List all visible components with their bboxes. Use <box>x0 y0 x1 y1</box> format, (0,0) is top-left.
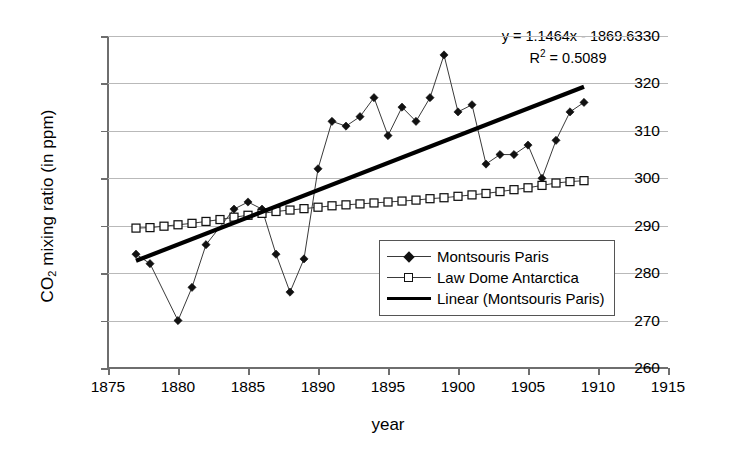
y-axis-title-subscript: 2 <box>46 271 58 277</box>
x-tick-label: 1895 <box>358 378 418 396</box>
data-point <box>440 51 448 59</box>
data-point <box>216 216 224 224</box>
x-tick-label: 1875 <box>78 378 138 396</box>
plot-area: 260270280290300310320330 187518801885189… <box>108 36 668 368</box>
data-point <box>244 198 252 206</box>
data-point <box>566 108 574 116</box>
data-point <box>314 203 322 211</box>
data-point <box>146 260 154 268</box>
x-tick-label: 1890 <box>288 378 348 396</box>
data-point <box>510 186 518 194</box>
legend-item: Linear (Montsouris Paris) <box>387 288 605 309</box>
legend-label: Montsouris Paris <box>437 248 549 265</box>
chart-figure: CO2 mixing ratio (in ppm) year y = 1.146… <box>0 0 752 463</box>
data-point <box>300 255 308 263</box>
data-point <box>174 221 182 229</box>
data-point <box>524 141 532 149</box>
data-point <box>496 188 504 196</box>
data-point <box>328 202 336 210</box>
data-point <box>370 94 378 102</box>
data-point <box>160 222 168 230</box>
data-point <box>580 177 588 185</box>
data-point <box>202 217 210 225</box>
y-axis-title-rest: mixing ratio (in ppm) <box>38 110 57 266</box>
y-tick <box>101 368 108 370</box>
x-tick-label: 1880 <box>148 378 208 396</box>
data-point <box>440 194 448 202</box>
y-tick <box>101 131 108 133</box>
legend-item: Law Dome Antarctica <box>387 267 605 288</box>
data-point <box>454 192 462 200</box>
data-point <box>356 200 364 208</box>
y-tick <box>101 321 108 323</box>
data-point <box>384 132 392 140</box>
legend-item: Montsouris Paris <box>387 246 605 267</box>
legend: Montsouris Paris Law Dome Antarctica Lin… <box>379 240 615 316</box>
data-point <box>342 122 350 130</box>
data-point <box>342 201 350 209</box>
data-point <box>496 150 504 158</box>
data-point <box>356 113 364 121</box>
data-point <box>566 178 574 186</box>
data-point <box>482 160 490 168</box>
y-tick <box>101 36 108 38</box>
data-point <box>538 181 546 189</box>
data-point <box>146 224 154 232</box>
data-point <box>132 224 140 232</box>
data-point <box>454 108 462 116</box>
data-point <box>132 250 140 258</box>
y-tick <box>101 83 108 85</box>
x-tick-label: 1900 <box>428 378 488 396</box>
legend-key-law-dome-antarctica <box>387 271 431 285</box>
data-point <box>580 98 588 106</box>
x-tick <box>248 368 250 375</box>
y-tick <box>101 178 108 180</box>
y-tick <box>101 273 108 275</box>
data-point <box>398 197 406 205</box>
legend-key-linear-trendline <box>387 292 431 306</box>
data-point <box>426 195 434 203</box>
data-point <box>188 219 196 227</box>
x-tick-label: 1915 <box>638 378 698 396</box>
data-point <box>510 150 518 158</box>
data-point <box>552 179 560 187</box>
legend-key-montsouris-paris <box>387 250 431 264</box>
data-point <box>174 316 182 324</box>
x-tick-label: 1905 <box>498 378 558 396</box>
data-point <box>314 165 322 173</box>
y-axis-title: CO2 mixing ratio (in ppm) <box>38 46 58 366</box>
x-tick <box>458 368 460 375</box>
data-point <box>370 199 378 207</box>
data-point <box>426 94 434 102</box>
x-tick <box>668 368 670 375</box>
x-tick <box>178 368 180 375</box>
data-point <box>384 198 392 206</box>
data-point <box>286 288 294 296</box>
x-tick <box>388 368 390 375</box>
data-point <box>300 205 308 213</box>
data-point <box>286 206 294 214</box>
data-point <box>412 196 420 204</box>
legend-label: Law Dome Antarctica <box>437 269 579 286</box>
x-tick-label: 1910 <box>568 378 628 396</box>
data-point <box>468 101 476 109</box>
data-point <box>482 189 490 197</box>
data-point <box>328 117 336 125</box>
series-law-dome-antarctica <box>132 177 588 232</box>
y-axis-title-prefix: CO <box>38 277 57 303</box>
data-point <box>188 283 196 291</box>
data-point <box>552 136 560 144</box>
legend-label: Linear (Montsouris Paris) <box>437 290 605 307</box>
x-tick <box>318 368 320 375</box>
x-tick-label: 1885 <box>218 378 278 396</box>
x-axis-title: year <box>108 415 668 435</box>
data-point <box>272 250 280 258</box>
data-point <box>468 191 476 199</box>
data-series-layer <box>108 36 668 368</box>
y-tick <box>101 226 108 228</box>
x-tick <box>598 368 600 375</box>
data-point <box>524 184 532 192</box>
x-tick <box>108 368 110 375</box>
x-tick <box>528 368 530 375</box>
